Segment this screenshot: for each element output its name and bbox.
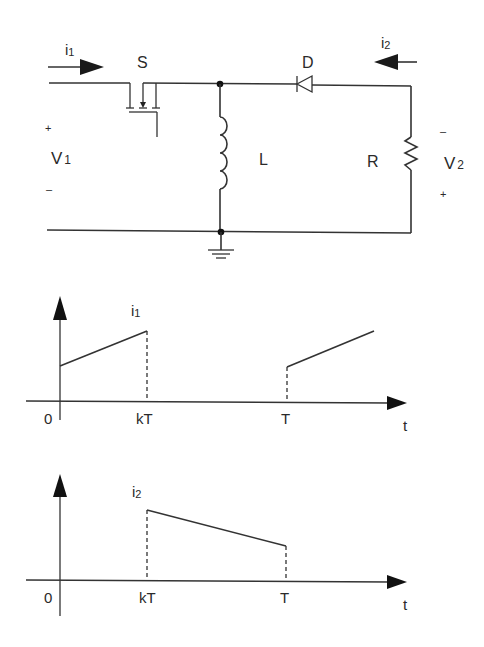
arrow-right-icon — [80, 59, 104, 75]
i1-label: i1i1 — [65, 41, 74, 58]
x-axis-label: t — [403, 417, 408, 434]
v1-label: V1 — [51, 149, 71, 168]
top-wire-right — [312, 85, 411, 86]
v1-minus-sign: – — [46, 183, 53, 195]
tick-T: T — [280, 589, 289, 606]
y-axis-arrow-icon — [53, 296, 67, 320]
x-axis-arrow-icon — [387, 396, 407, 410]
resistor-label: R — [367, 153, 379, 170]
i1-ramp-2 — [287, 331, 374, 367]
switch-label: S — [137, 54, 148, 71]
inductor-icon — [220, 84, 227, 232]
graph-i2: i2 0 kT T t — [26, 474, 408, 616]
tick-kT: kT — [136, 410, 153, 427]
v1-plus-sign: + — [45, 122, 51, 134]
origin-label: 0 — [44, 410, 52, 427]
circuit: i1i1 S D — [45, 34, 464, 258]
x-axis-arrow-icon — [387, 575, 407, 589]
i1-axis-label: i1 — [131, 302, 140, 319]
i2-label: i2 — [381, 34, 390, 51]
origin-label: 0 — [44, 589, 52, 606]
ground-icon — [208, 232, 234, 258]
y-axis-arrow-icon — [53, 474, 67, 497]
arrow-left-icon — [374, 54, 398, 70]
i1-current-arrow: i1i1 — [48, 41, 104, 75]
v2-label: V2 — [444, 154, 464, 173]
v2-plus-sign: + — [440, 188, 446, 200]
mosfet-switch-icon — [126, 83, 160, 137]
diode-label: D — [302, 54, 314, 71]
i2-ramp — [147, 510, 286, 546]
inductor-label: L — [259, 151, 268, 168]
x-axis — [26, 580, 390, 582]
x-axis-label: t — [403, 596, 408, 613]
i1-ramp-1 — [60, 331, 147, 366]
bottom-wire — [47, 230, 411, 233]
x-axis — [26, 401, 390, 403]
diagram-canvas: i1i1 S D — [0, 0, 484, 647]
tick-kT: kT — [139, 589, 156, 606]
i2-axis-label: i2 — [132, 483, 141, 500]
diode-icon — [297, 76, 312, 92]
v2-minus-sign: – — [440, 125, 447, 137]
resistor-icon — [405, 86, 417, 233]
tick-T: T — [281, 410, 290, 427]
graph-i1: i1 0 kT T t — [26, 296, 408, 434]
i2-current-arrow: i2 — [133, 34, 417, 70]
